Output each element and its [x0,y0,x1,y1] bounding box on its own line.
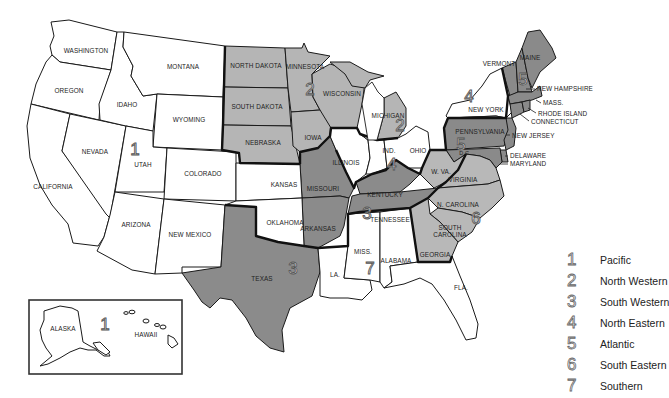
svg-text:TENNESSEE: TENNESSEE [370,216,410,223]
legend-label: South Western [600,296,669,308]
svg-text:OKLAHOMA: OKLAHOMA [266,219,304,226]
svg-text:WISCONSIN: WISCONSIN [323,90,361,97]
region-marker-5: 5 [518,70,527,89]
legend-number: 2 [567,271,587,291]
svg-text:CAROLINA: CAROLINA [433,231,467,238]
svg-text:ILLINOIS: ILLINOIS [332,159,359,166]
svg-text:FLA.: FLA. [454,284,468,291]
svg-text:WASHINGTON: WASHINGTON [64,47,109,54]
svg-text:TEXAS: TEXAS [251,275,272,282]
svg-text:COLORADO: COLORADO [184,170,221,177]
legend-item-south-western: 3 South Western [567,292,669,312]
svg-text:RHODE ISLAND: RHODE ISLAND [538,110,587,117]
svg-text:W. VA.: W. VA. [431,168,451,175]
svg-text:KANSAS: KANSAS [271,181,298,188]
region-marker-1: 1 [100,315,109,334]
svg-text:IDAHO: IDAHO [117,101,138,108]
region-marker-2: 2 [305,80,314,99]
legend-number: 7 [567,376,587,396]
svg-text:NORTH DAKOTA: NORTH DAKOTA [230,62,282,69]
svg-text:NEW HAMPSHIRE: NEW HAMPSHIRE [537,85,593,92]
legend-number: 1 [567,250,587,270]
legend-item-north-western: 2 North Western [567,271,668,291]
svg-text:LA.: LA. [330,271,340,278]
svg-text:MONTANA: MONTANA [167,63,200,70]
region-marker-1: 1 [130,140,139,159]
svg-text:N. CAROLINA: N. CAROLINA [437,201,480,208]
svg-text:CONNECTICUT: CONNECTICUT [531,118,579,125]
svg-text:SOUTH: SOUTH [439,224,462,231]
svg-text:DELAWARE: DELAWARE [510,152,546,159]
region-marker-3: 3 [288,259,297,278]
svg-text:MISSOURI: MISSOURI [307,185,340,192]
svg-text:NEVADA: NEVADA [82,148,109,155]
svg-text:IOWA: IOWA [304,134,322,141]
svg-text:MISS.: MISS. [354,248,372,255]
svg-text:MAINE: MAINE [520,54,541,61]
state-arkansas[interactable] [302,196,349,248]
legend-item-southern: 7 Southern [567,376,643,396]
state-florida[interactable] [384,256,478,340]
region-marker-4: 4 [464,87,473,106]
svg-text:CALIFORNIA: CALIFORNIA [33,183,73,190]
svg-text:HAWAII: HAWAII [135,331,158,338]
region-marker-2: 2 [395,116,404,135]
svg-text:UTAH: UTAH [134,161,152,168]
inset-alaska-hawaii: ALASKA HAWAII 1 [29,300,182,374]
legend-item-atlantic: 5 Atlantic [567,334,634,354]
svg-text:OREGON: OREGON [54,87,83,94]
legend-number: 4 [567,313,587,333]
svg-text:ALASKA: ALASKA [50,325,76,332]
legend-item-north-eastern: 4 North Eastern [567,313,665,333]
region-marker-6: 6 [471,209,480,228]
svg-text:ARKANSAS: ARKANSAS [300,225,336,232]
svg-text:NEW MEXICO: NEW MEXICO [169,231,212,238]
svg-text:ALABAMA: ALABAMA [381,257,413,264]
legend-label: Atlantic [600,338,634,350]
legend-number: 5 [567,334,587,354]
legend-label: North Eastern [600,317,665,329]
svg-text:MARYLAND: MARYLAND [510,160,546,167]
svg-text:SOUTH DAKOTA: SOUTH DAKOTA [231,103,283,110]
svg-text:VERMONT: VERMONT [483,60,516,67]
region-marker-4: 4 [387,155,396,174]
svg-text:NEBRASKA: NEBRASKA [245,139,281,146]
legend-label: North Western [600,275,668,287]
svg-text:VIRGINIA: VIRGINIA [449,176,478,183]
region-marker-3: 3 [362,204,371,223]
svg-text:ARIZONA: ARIZONA [121,221,151,228]
legend-number: 6 [567,355,587,375]
svg-text:MINNESOTA: MINNESOTA [286,63,325,70]
svg-text:PENNSYLVANIA: PENNSYLVANIA [455,128,505,135]
svg-text:MASS.: MASS. [543,99,564,106]
svg-text:IND.: IND. [382,147,395,154]
svg-text:WYOMING: WYOMING [173,116,206,123]
legend-label: Southern [600,380,643,392]
legend-item-pacific: 1 Pacific [567,250,631,270]
region-marker-5: 5 [456,135,465,154]
svg-text:GEORGIA: GEORGIA [420,251,451,258]
svg-text:NEW YORK: NEW YORK [468,106,504,113]
legend-item-south-eastern: 6 South Eastern [567,355,667,375]
legend-label: South Eastern [600,359,667,371]
svg-text:NEW JERSEY: NEW JERSEY [512,132,555,139]
svg-text:OHIO: OHIO [410,147,427,154]
svg-text:KENTUCKY: KENTUCKY [367,191,403,198]
legend-label: Pacific [600,254,631,266]
region-marker-7: 7 [365,259,374,278]
state-rhode-island[interactable] [522,100,530,112]
legend-number: 3 [567,292,587,312]
